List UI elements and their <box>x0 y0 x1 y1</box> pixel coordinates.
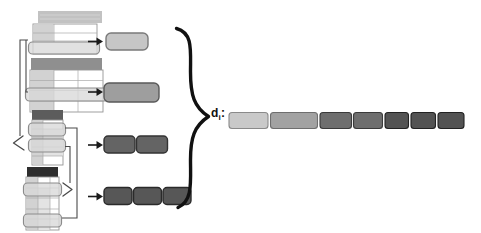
table-3-icon <box>29 110 66 165</box>
table-2-icon <box>26 58 109 112</box>
feature-block-table3-1 <box>104 136 135 153</box>
curly-brace-icon <box>177 29 209 208</box>
table-1-highlighted-row <box>29 42 100 54</box>
table-3-highlighted-row-1 <box>29 123 66 136</box>
table-2-header <box>31 58 102 70</box>
arrow-right-icon-4 <box>88 193 103 201</box>
vector-segment-1 <box>229 113 268 129</box>
diagram-canvas: di: <box>0 0 481 233</box>
vector-label: di: <box>211 106 225 122</box>
table-4-header <box>27 167 58 177</box>
table-3-header <box>32 110 63 120</box>
table-4-icon <box>24 167 62 230</box>
vector-segment-6 <box>411 113 436 129</box>
arrow-right-icon-3 <box>88 141 103 149</box>
vector-segment-4 <box>354 113 383 129</box>
connector-table2-to-table3 <box>26 40 28 92</box>
vector-label-separator: : <box>221 106 225 120</box>
vector-segment-2 <box>271 113 318 129</box>
feature-vector-row <box>229 113 464 129</box>
feature-block-table4-2 <box>134 188 162 205</box>
table-4-highlighted-row-1 <box>24 183 62 196</box>
diagram-svg <box>0 0 481 233</box>
table-1-icon <box>29 11 103 54</box>
feature-block-table4-1 <box>104 188 132 205</box>
chevron-right-arrowhead-icon <box>63 183 72 196</box>
feature-block-table2 <box>104 83 159 102</box>
vector-segment-7 <box>438 113 464 129</box>
table-1-header <box>38 11 102 23</box>
vector-segment-3 <box>320 113 352 129</box>
connector-table1-to-table3 <box>20 40 28 136</box>
table-2-highlighted-row <box>26 88 109 101</box>
vector-segment-5 <box>385 113 409 129</box>
chevron-left-arrowhead-icon <box>14 136 25 150</box>
table-3-highlighted-row-2 <box>29 139 66 152</box>
connector-table3-to-table4-inner <box>65 147 70 184</box>
table-4-highlighted-row-2 <box>24 214 62 227</box>
feature-block-table1 <box>106 33 148 50</box>
feature-block-table3-2 <box>137 136 168 153</box>
vector-label-base: d <box>211 106 219 120</box>
